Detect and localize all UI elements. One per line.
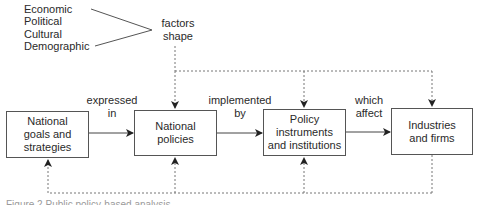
factor-demographic: Demographic: [24, 40, 89, 52]
edge-label-which-affect: which affect: [348, 94, 390, 120]
box-policy-instruments-label: Policy instruments and institutions: [268, 113, 341, 152]
factor-converge-line-bottom: [95, 30, 152, 46]
box-national-goals-label: National goals and strategies: [24, 115, 72, 154]
edge-label-expressed-in: expressed in: [86, 94, 138, 120]
figure-caption: Figure 2 Public policy-based analysis: [6, 199, 171, 205]
box-industries: Industries and firms: [391, 108, 473, 155]
factor-converge-line-top: [91, 9, 152, 30]
factor-economic: Economic: [24, 3, 89, 15]
box-policy-instruments: Policy instruments and institutions: [263, 109, 346, 156]
factor-cultural: Cultural: [24, 28, 89, 40]
factor-political: Political: [24, 15, 89, 27]
box-national-goals: National goals and strategies: [6, 111, 89, 158]
box-industries-label: Industries and firms: [408, 119, 456, 145]
edge-label-implemented-by: implemented by: [205, 94, 275, 120]
factors-list: Economic Political Cultural Demographic: [24, 3, 89, 52]
box-national-policies-label: National policies: [155, 120, 195, 146]
factors-shape-label: factors shape: [156, 17, 200, 43]
